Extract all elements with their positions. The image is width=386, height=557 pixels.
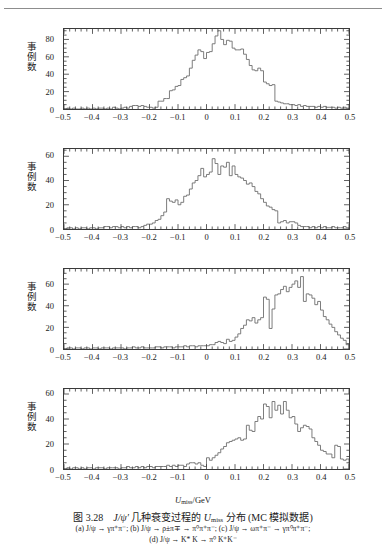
x-tick-label: −0.2 bbox=[141, 352, 156, 362]
x-tick-label: 0.1 bbox=[230, 112, 241, 122]
x-axis-ticks-d: −0.5−0.4−0.3−0.2−0.100.10.20.30.40.5 bbox=[63, 472, 350, 486]
x-tick-label: −0.5 bbox=[55, 112, 70, 122]
x-tick-label: 0.1 bbox=[230, 232, 241, 242]
x-tick-label: −0.5 bbox=[55, 352, 70, 362]
x-tick-label: −0.4 bbox=[84, 112, 99, 122]
x-tick-label: 0.2 bbox=[259, 112, 270, 122]
x-axis-ticks-c: −0.5−0.4−0.3−0.2−0.100.10.20.30.40.5 bbox=[63, 352, 350, 366]
figure-caption-title: 图 3.28J/ψ′ 几种衰变过程的 Umiss 分布 (MC 模拟数据) bbox=[0, 509, 386, 524]
histogram-curve-c bbox=[64, 269, 349, 349]
y-tick-label: 60 bbox=[46, 388, 55, 398]
figure-number: 图 3.28 bbox=[73, 512, 103, 523]
x-tick-label: 0 bbox=[204, 352, 208, 362]
figure-title-main: 几种衰变过程的 bbox=[131, 512, 201, 523]
x-tick-label: 0.3 bbox=[287, 352, 298, 362]
histogram-curve-a bbox=[64, 29, 349, 109]
y-tick-label: 80 bbox=[46, 34, 55, 44]
y-tick-label: 60 bbox=[46, 52, 55, 62]
x-tick-label: 0 bbox=[204, 112, 208, 122]
x-tick-label: 0.4 bbox=[316, 112, 327, 122]
x-tick-label: 0.3 bbox=[287, 232, 298, 242]
x-axis-ticks-a: −0.5−0.4−0.3−0.2−0.100.10.20.30.40.5 bbox=[63, 112, 350, 126]
x-axis-ticks-b: −0.5−0.4−0.3−0.2−0.100.10.20.30.40.5 bbox=[63, 232, 350, 246]
x-axis-unit: /GeV bbox=[193, 495, 211, 505]
plot-area-a bbox=[63, 28, 350, 110]
x-tick-label: −0.4 bbox=[84, 232, 99, 242]
caption-line-1: (a) J/ψ → γπ⁺π⁻; (b) J/ψ → ρ±π∓ → π⁰π⁺π⁻… bbox=[0, 524, 386, 533]
x-tick-label: −0.1 bbox=[170, 112, 185, 122]
y-tick-label: 0 bbox=[50, 465, 54, 475]
x-tick-label: 0.4 bbox=[316, 472, 327, 482]
plot-area-d bbox=[63, 388, 350, 470]
histogram-curve-d bbox=[64, 389, 349, 469]
figure-variable: U bbox=[204, 512, 211, 523]
x-tick-label: 0.5 bbox=[345, 112, 356, 122]
x-tick-label: 0.2 bbox=[259, 352, 270, 362]
caption-line-2: (d) J/ψ → K* K → π⁰ K⁺K⁻ bbox=[0, 535, 386, 544]
y-tick-label: 20 bbox=[46, 200, 55, 210]
y-tick-label: 40 bbox=[46, 414, 55, 424]
y-tick-label: 40 bbox=[46, 301, 55, 311]
x-tick-label: −0.3 bbox=[113, 112, 128, 122]
x-tick-label: −0.1 bbox=[170, 232, 185, 242]
x-tick-label: 0 bbox=[204, 232, 208, 242]
x-tick-label: 0.1 bbox=[230, 472, 241, 482]
y-tick-label: 0 bbox=[50, 345, 54, 355]
x-tick-label: −0.3 bbox=[113, 232, 128, 242]
x-tick-label: 0.2 bbox=[259, 232, 270, 242]
x-tick-label: −0.3 bbox=[113, 472, 128, 482]
x-tick-label: −0.5 bbox=[55, 232, 70, 242]
figure-title-tail: 分布 (MC 模拟数据) bbox=[226, 512, 313, 523]
x-tick-label: 0.4 bbox=[316, 232, 327, 242]
y-axis-ticks-b: 0204060 bbox=[0, 138, 60, 258]
y-tick-label: 20 bbox=[46, 323, 55, 333]
y-tick-label: 20 bbox=[46, 439, 55, 449]
y-tick-label: 0 bbox=[50, 105, 54, 115]
y-tick-label: 40 bbox=[46, 175, 55, 185]
y-axis-ticks-c: 0204060 bbox=[0, 258, 60, 378]
y-tick-label: 0 bbox=[50, 225, 54, 235]
x-tick-label: −0.1 bbox=[170, 352, 185, 362]
x-tick-label: 0.5 bbox=[345, 472, 356, 482]
chart-panel-c: 事例数 0204060 (c) −0.5−0.4−0.3−0.2−0.100.1… bbox=[0, 258, 386, 378]
x-tick-label: 0.2 bbox=[259, 472, 270, 482]
y-tick-label: 60 bbox=[46, 279, 55, 289]
x-tick-label: 0.3 bbox=[287, 112, 298, 122]
chart-panel-b: 事例数 0204060 (b) −0.5−0.4−0.3−0.2−0.100.1… bbox=[0, 138, 386, 258]
y-tick-label: 40 bbox=[46, 69, 55, 79]
x-tick-label: 0.5 bbox=[345, 232, 356, 242]
x-axis-title: Umiss/GeV bbox=[0, 495, 386, 505]
chart-panel-a: 事例数 020406080 (a) −0.5−0.4−0.3−0.2−0.100… bbox=[0, 18, 386, 138]
histogram-curve-b bbox=[64, 149, 349, 229]
x-tick-label: 0.5 bbox=[345, 352, 356, 362]
x-tick-label: −0.4 bbox=[84, 472, 99, 482]
x-tick-label: −0.1 bbox=[170, 472, 185, 482]
plot-area-c bbox=[63, 268, 350, 350]
figure-page: 事例数 020406080 (a) −0.5−0.4−0.3−0.2−0.100… bbox=[0, 0, 386, 557]
y-axis-ticks-a: 020406080 bbox=[0, 18, 60, 138]
header-rule bbox=[4, 8, 382, 9]
x-tick-label: −0.4 bbox=[84, 352, 99, 362]
x-tick-label: −0.3 bbox=[113, 352, 128, 362]
y-axis-ticks-d: 0204060 bbox=[0, 378, 60, 498]
figure-symbol: J/ψ′ bbox=[113, 512, 129, 523]
x-tick-label: −0.2 bbox=[141, 472, 156, 482]
y-tick-label: 60 bbox=[46, 150, 55, 160]
y-tick-label: 20 bbox=[46, 87, 55, 97]
x-tick-label: −0.2 bbox=[141, 232, 156, 242]
x-tick-label: 0.3 bbox=[287, 472, 298, 482]
plot-area-b bbox=[63, 148, 350, 230]
figure-variable-sub: miss bbox=[211, 516, 223, 523]
x-tick-label: 0 bbox=[204, 472, 208, 482]
chart-panel-d: 事例数 0204060 (d) −0.5−0.4−0.3−0.2−0.100.1… bbox=[0, 378, 386, 498]
x-tick-label: 0.1 bbox=[230, 352, 241, 362]
x-tick-label: −0.2 bbox=[141, 112, 156, 122]
x-axis-subscript: miss bbox=[181, 498, 192, 505]
x-tick-label: 0.4 bbox=[316, 352, 327, 362]
x-tick-label: −0.5 bbox=[55, 472, 70, 482]
